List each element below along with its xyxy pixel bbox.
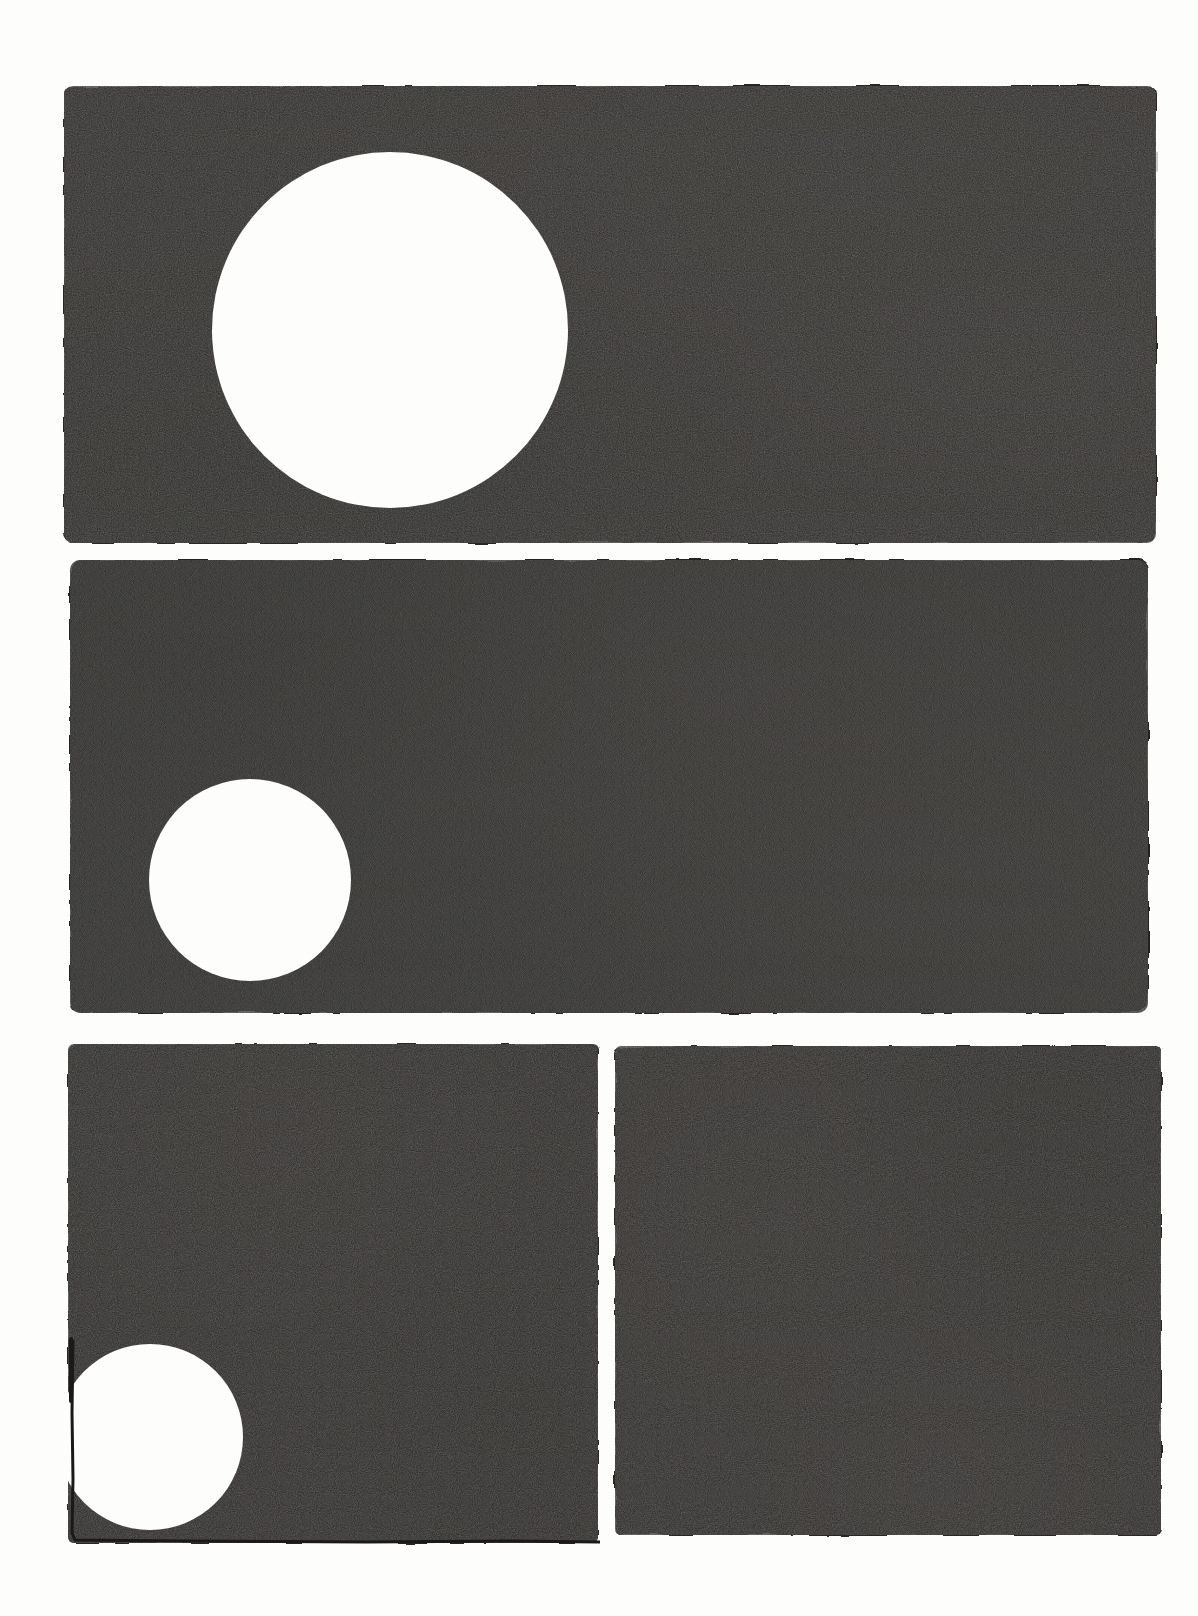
panel-4-ink-fill: [613, 1043, 1163, 1537]
comic-panel-2[interactable]: [68, 557, 1150, 1015]
comic-panel-1[interactable]: [62, 83, 1158, 545]
panel-2-white-circle: [149, 779, 351, 981]
comic-panel-3[interactable]: [66, 1041, 600, 1545]
artboard: Three-tier inked panel grid with white c…: [0, 0, 1198, 1616]
comic-panel-4[interactable]: [613, 1043, 1163, 1537]
panel-1-white-circle: [212, 152, 568, 508]
